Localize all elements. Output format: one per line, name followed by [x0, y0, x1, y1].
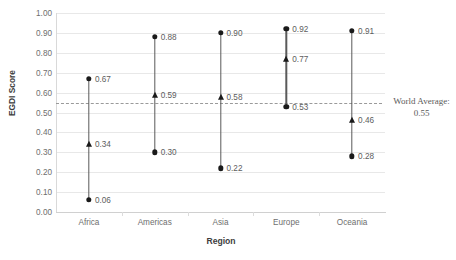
y-axis-title: EGDI Score: [7, 63, 17, 123]
data-point-label: 0.30: [161, 148, 177, 157]
data-point-label: 0.91: [358, 26, 374, 35]
data-point-label: 0.46: [358, 116, 374, 125]
data-point-label: 0.59: [161, 90, 177, 99]
x-axis-category-label: Europe: [273, 218, 299, 227]
y-axis-tick-label: 0.10: [8, 188, 52, 197]
data-point-label: 0.34: [95, 140, 111, 149]
y-axis-tick-label: 0.00: [8, 208, 52, 217]
data-point-label: 0.22: [227, 164, 243, 173]
gridline: [56, 13, 385, 14]
range-stem: [351, 31, 352, 156]
range-stem: [220, 33, 221, 168]
gridline: [56, 192, 385, 193]
data-point-marker: [283, 55, 289, 61]
data-point-marker: [349, 117, 355, 123]
y-axis-line: [56, 13, 57, 213]
x-axis-title: Region: [56, 236, 386, 246]
gridline: [56, 172, 385, 173]
x-axis-tick: [253, 212, 254, 216]
y-axis-tick-label: 0.40: [8, 128, 52, 137]
data-point-label: 0.06: [95, 196, 111, 205]
x-axis-line: [56, 212, 386, 213]
x-axis-category-label: Americas: [138, 218, 172, 227]
data-point-label: 0.28: [358, 152, 374, 161]
x-axis-category-label: Africa: [78, 218, 99, 227]
world-average-label-line1: World Average:: [387, 95, 456, 107]
data-point-marker: [152, 91, 158, 97]
data-point-label: 0.92: [292, 24, 308, 33]
y-axis-tick-label: 0.30: [8, 148, 52, 157]
data-point-label: 0.90: [227, 28, 243, 37]
data-point-label: 0.58: [227, 92, 243, 101]
egdi-score-by-region-chart: 1.000.900.800.700.600.500.400.300.200.10…: [0, 0, 456, 260]
x-axis-category-label: Oceania: [337, 218, 368, 227]
data-point-label: 0.88: [161, 32, 177, 41]
data-point-marker: [86, 141, 92, 147]
world-average-label-line2: 0.55: [387, 107, 456, 119]
x-axis-tick: [122, 212, 123, 216]
y-axis-tick-label: 0.20: [8, 168, 52, 177]
y-axis-tick-label: 1.00: [8, 9, 52, 18]
x-axis-tick: [188, 212, 189, 216]
x-axis-category-label: Asia: [213, 218, 229, 227]
data-point-marker: [218, 93, 224, 99]
y-axis-tick-label: 0.90: [8, 28, 52, 37]
range-stem: [88, 79, 89, 200]
data-point-label: 0.67: [95, 74, 111, 83]
data-point-label: 0.53: [292, 102, 308, 111]
x-axis-tick: [319, 212, 320, 216]
y-axis-tick-label: 0.80: [8, 48, 52, 57]
world-average-label: World Average: 0.55: [387, 95, 456, 119]
range-stem: [286, 29, 287, 107]
data-point-label: 0.77: [292, 54, 308, 63]
